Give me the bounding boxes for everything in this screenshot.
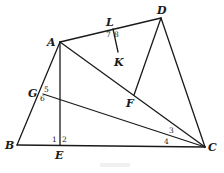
segment-DF [134,18,161,95]
point-label-B: B [4,139,14,152]
point-label-L: L [105,16,114,29]
angle-label-7: 7 [106,30,111,39]
point-label-C: C [208,141,217,154]
angle-label-6: 6 [40,94,45,103]
angle-label-8: 8 [114,30,119,39]
point-label-K: K [113,56,124,69]
point-label-F: F [125,97,135,110]
point-label-E: E [54,149,64,162]
point-label-A: A [46,36,56,49]
point-label-G: G [28,87,37,100]
caption-smudge [100,163,130,167]
angle-label-3: 3 [169,126,174,135]
angle-label-4: 4 [164,137,169,146]
angle-label-2: 2 [62,135,67,144]
segment-AC [60,42,205,147]
angle-label-1: 1 [52,135,57,144]
segment-CD [161,18,205,147]
point-label-D: D [156,4,167,17]
segment-GC [43,94,205,147]
segment-BC [17,145,205,147]
segment-AB [17,42,60,145]
angle-label-5: 5 [44,85,49,94]
geometry-diagram: A B C D E F G K L 1 2 3 4 5 6 7 8 [0,0,224,173]
